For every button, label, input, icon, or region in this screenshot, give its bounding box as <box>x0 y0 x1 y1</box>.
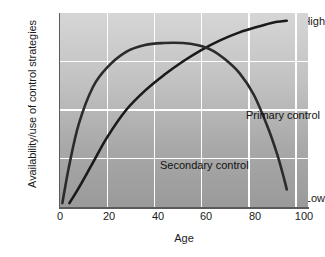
x-axis-tick-0: 0 <box>40 210 80 222</box>
x-axis-label: Age <box>60 232 308 244</box>
series-label-secondary: Secondary control <box>160 159 249 171</box>
x-axis-tick-100: 100 <box>284 210 324 222</box>
x-axis-tick-60: 60 <box>186 210 226 222</box>
chart-figure: Availability/use of control strategies H… <box>0 0 325 257</box>
plot-area: Primary control Secondary control <box>60 13 308 207</box>
x-axis-line <box>59 207 309 209</box>
x-axis-tick-40: 40 <box>138 210 178 222</box>
series-label-primary: Primary control <box>246 109 320 121</box>
y-axis-label: Availability/use of control strategies <box>26 0 38 214</box>
x-axis-tick-80: 80 <box>235 210 275 222</box>
x-axis-tick-20: 20 <box>89 210 129 222</box>
